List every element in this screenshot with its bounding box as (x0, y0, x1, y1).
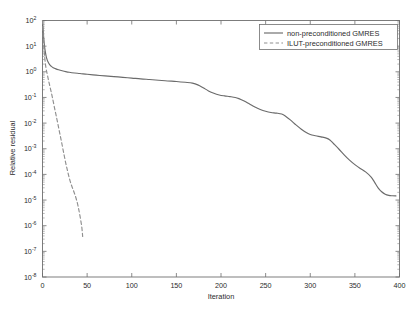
x-tick-label: 50 (83, 281, 91, 290)
x-tick-label: 100 (126, 281, 138, 290)
x-tick-label: 0 (41, 281, 45, 290)
x-tick-label: 400 (394, 281, 406, 290)
x-tick-label: 200 (215, 281, 227, 290)
legend-label-ilut-preconditioned: ILUT-preconditioned GMRES (287, 39, 383, 48)
x-axis-title: Iteration (208, 292, 235, 301)
legend-label-non-preconditioned: non-preconditioned GMRES (287, 29, 380, 38)
x-tick-label: 250 (260, 281, 272, 290)
x-tick-label: 300 (304, 281, 316, 290)
convergence-plot: 10210110010-110-210-310-410-510-610-710-… (0, 0, 418, 309)
x-tick-label: 350 (349, 281, 361, 290)
x-tick-label: 150 (170, 281, 182, 290)
y-axis-title: Relative residual (8, 120, 17, 175)
chart-legend[interactable]: non-preconditioned GMRES ILUT-preconditi… (260, 25, 398, 50)
figure-canvas: 10210110010-110-210-310-410-510-610-710-… (0, 0, 418, 309)
